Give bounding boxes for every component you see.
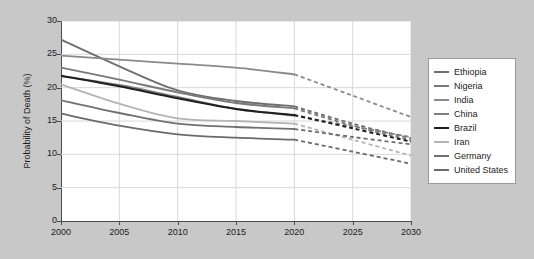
x-tick-mark xyxy=(294,221,295,225)
x-tick-label: 2005 xyxy=(99,227,139,237)
legend-swatch-icon xyxy=(434,99,449,101)
x-tick-mark xyxy=(353,221,354,225)
y-tick-label: 15 xyxy=(17,115,57,125)
x-tick-mark xyxy=(411,221,412,225)
x-tick-label: 2000 xyxy=(41,227,81,237)
chart-figure: Probability of Death (%) 051015202530 20… xyxy=(17,13,517,246)
x-tick-label: 2030 xyxy=(391,227,431,237)
x-tick-label: 2025 xyxy=(333,227,373,237)
y-tick-mark xyxy=(57,154,61,155)
legend-swatch-icon xyxy=(434,169,449,171)
legend-label: Germany xyxy=(454,152,491,161)
x-tick-mark xyxy=(236,221,237,225)
legend-item-ethiopia[interactable]: Ethiopia xyxy=(434,65,508,79)
y-tick-label: 5 xyxy=(17,182,57,192)
legend-label: China xyxy=(454,110,478,119)
legend-item-nigeria[interactable]: Nigeria xyxy=(434,79,508,93)
x-tick-label: 2020 xyxy=(274,227,314,237)
legend-item-united-states[interactable]: United States xyxy=(434,163,508,177)
legend-label: Nigeria xyxy=(454,82,483,91)
legend-label: Ethiopia xyxy=(454,68,487,77)
legend-swatch-icon xyxy=(434,127,449,129)
y-tick-label: 0 xyxy=(17,215,57,225)
x-tick-mark xyxy=(119,221,120,225)
legend-swatch-icon xyxy=(434,71,449,73)
series-lines xyxy=(61,21,411,221)
chart-legend: EthiopiaNigeriaIndiaChinaBrazilIranGerma… xyxy=(428,58,516,184)
legend-swatch-icon xyxy=(434,155,449,157)
legend-swatch-icon xyxy=(434,85,449,87)
legend-item-brazil[interactable]: Brazil xyxy=(434,121,508,135)
y-tick-mark xyxy=(57,54,61,55)
y-tick-label: 25 xyxy=(17,48,57,58)
y-tick-label: 20 xyxy=(17,82,57,92)
y-tick-mark xyxy=(57,121,61,122)
y-tick-mark xyxy=(57,21,61,22)
legend-item-india[interactable]: India xyxy=(434,93,508,107)
legend-label: India xyxy=(454,96,474,105)
legend-swatch-icon xyxy=(434,113,449,115)
x-tick-label: 2015 xyxy=(216,227,256,237)
y-tick-mark xyxy=(57,88,61,89)
legend-item-germany[interactable]: Germany xyxy=(434,149,508,163)
y-tick-label: 10 xyxy=(17,148,57,158)
legend-label: Brazil xyxy=(454,124,477,133)
x-tick-mark xyxy=(61,221,62,225)
legend-swatch-icon xyxy=(434,141,449,143)
x-tick-label: 2010 xyxy=(158,227,198,237)
legend-item-iran[interactable]: Iran xyxy=(434,135,508,149)
legend-label: United States xyxy=(454,166,508,175)
x-tick-mark xyxy=(178,221,179,225)
y-tick-mark xyxy=(57,188,61,189)
y-tick-label: 30 xyxy=(17,15,57,25)
plot-wrapper: Probability of Death (%) 051015202530 20… xyxy=(61,21,411,221)
legend-item-china[interactable]: China xyxy=(434,107,508,121)
legend-label: Iran xyxy=(454,138,470,147)
